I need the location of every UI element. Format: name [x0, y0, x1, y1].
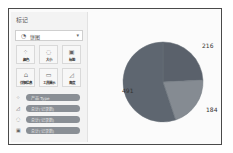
marks-card: 标记 ◔ 饼图 ▾ ⁘ 颜色 ◌ 大小 ▣ 标签 ⩍ 详细信息 [11, 12, 88, 142]
detail-icon: ⩍ [17, 71, 34, 79]
angle-icon: ◿ [63, 71, 80, 78]
slice-label: 184 [206, 106, 217, 113]
slice-label: 491 [122, 87, 133, 94]
pill-row-color: ⁘ 产品 Type [16, 94, 86, 102]
label-icon: ▣ [16, 127, 21, 133]
angle-icon: ◿ [16, 105, 20, 111]
detail-button[interactable]: ⩍ 详细信息 [16, 68, 35, 87]
color-label: 颜色 [17, 57, 34, 62]
field-pill[interactable]: 产品 Type [26, 94, 80, 101]
detail-label: 详细信息 [17, 80, 34, 85]
size-label: 大小 [40, 57, 57, 62]
worksheet-frame: 标记 ◔ 饼图 ▾ ⁘ 颜色 ◌ 大小 ▣ 标签 ⩍ 详细信息 [8, 8, 222, 145]
pill-row-size: ◌ 总计(记录数) [16, 116, 86, 124]
mark-type-label: 饼图 [30, 33, 40, 40]
field-pill[interactable]: 总计(记录数) [26, 105, 80, 112]
marks-title: 标记 [16, 15, 28, 24]
angle-button[interactable]: ◿ 角度 [62, 68, 81, 87]
color-button[interactable]: ⁘ 颜色 [16, 45, 35, 64]
tooltip-icon: ▭ [40, 71, 57, 78]
color-icon: ⁘ [17, 48, 34, 55]
size-icon: ◌ [40, 48, 57, 55]
tooltip-label: 工具提示 [40, 80, 57, 85]
pill-label: 总计(记录数) [31, 128, 54, 134]
pie-slice[interactable] [163, 42, 203, 82]
pill-row-angle: ◿ 总计(记录数) [16, 105, 86, 113]
field-pill[interactable]: 总计(记录数) [26, 116, 80, 123]
pie-icon: ◔ [21, 32, 26, 39]
pie-chart: 216 184 491 [89, 12, 219, 142]
tooltip-button[interactable]: ▭ 工具提示 [39, 68, 58, 87]
field-pill[interactable]: 总计(记录数) [26, 127, 80, 134]
pill-label: 产品 Type [31, 95, 49, 101]
label-label: 标签 [63, 57, 80, 62]
label-icon: ▣ [63, 48, 80, 55]
pill-row-label: ▣ 总计(记录数) [16, 127, 86, 135]
chevron-down-icon: ▾ [76, 32, 79, 38]
mark-type-dropdown[interactable]: ◔ 饼图 ▾ [15, 30, 83, 41]
size-icon: ◌ [16, 116, 20, 122]
label-button[interactable]: ▣ 标签 [62, 45, 81, 64]
pill-label: 总计(记录数) [31, 106, 54, 112]
slice-label: 216 [202, 42, 213, 49]
color-icon: ⁘ [16, 94, 20, 100]
angle-label: 角度 [63, 80, 80, 85]
size-button[interactable]: ◌ 大小 [39, 45, 58, 64]
pie-svg [89, 12, 219, 142]
pill-label: 总计(记录数) [31, 117, 54, 123]
